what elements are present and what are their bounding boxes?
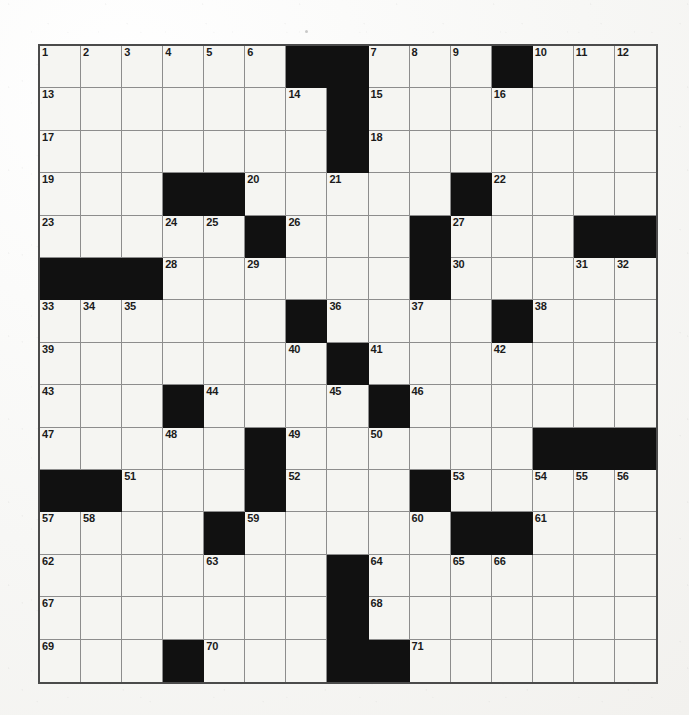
crossword-cell[interactable]: 21 — [327, 173, 368, 215]
crossword-cell[interactable] — [245, 640, 286, 682]
crossword-cell[interactable] — [163, 131, 204, 173]
crossword-cell[interactable] — [533, 385, 574, 427]
crossword-cell[interactable]: 16 — [492, 88, 533, 130]
crossword-cell[interactable]: 51 — [122, 470, 163, 512]
crossword-cell[interactable] — [81, 216, 122, 258]
crossword-cell[interactable] — [492, 385, 533, 427]
crossword-cell[interactable]: 68 — [369, 597, 410, 639]
crossword-cell[interactable] — [410, 343, 451, 385]
crossword-cell[interactable] — [369, 258, 410, 300]
crossword-cell[interactable]: 49 — [286, 428, 327, 470]
crossword-cell[interactable] — [615, 173, 656, 215]
crossword-cell[interactable] — [492, 470, 533, 512]
crossword-cell[interactable] — [81, 385, 122, 427]
crossword-cell[interactable] — [492, 597, 533, 639]
crossword-cell[interactable] — [163, 470, 204, 512]
crossword-cell[interactable] — [533, 131, 574, 173]
crossword-cell[interactable] — [327, 258, 368, 300]
crossword-cell[interactable]: 39 — [40, 343, 81, 385]
crossword-cell[interactable]: 14 — [286, 88, 327, 130]
crossword-cell[interactable] — [163, 512, 204, 554]
crossword-cell[interactable] — [369, 216, 410, 258]
crossword-cell[interactable] — [81, 428, 122, 470]
crossword-cell[interactable] — [286, 555, 327, 597]
crossword-cell[interactable] — [574, 597, 615, 639]
crossword-cell[interactable] — [122, 131, 163, 173]
crossword-cell[interactable] — [163, 88, 204, 130]
crossword-cell[interactable] — [163, 343, 204, 385]
crossword-cell[interactable]: 38 — [533, 300, 574, 342]
crossword-cell[interactable] — [369, 470, 410, 512]
crossword-cell[interactable] — [81, 131, 122, 173]
crossword-cell[interactable] — [451, 300, 492, 342]
crossword-cell[interactable] — [574, 131, 615, 173]
crossword-cell[interactable] — [615, 131, 656, 173]
crossword-cell[interactable]: 57 — [40, 512, 81, 554]
crossword-cell[interactable] — [163, 300, 204, 342]
crossword-cell[interactable] — [245, 343, 286, 385]
crossword-cell[interactable]: 43 — [40, 385, 81, 427]
crossword-cell[interactable] — [245, 385, 286, 427]
crossword-cell[interactable] — [286, 258, 327, 300]
crossword-cell[interactable]: 1 — [40, 46, 81, 88]
crossword-cell[interactable] — [615, 343, 656, 385]
crossword-cell[interactable]: 13 — [40, 88, 81, 130]
crossword-cell[interactable] — [81, 173, 122, 215]
crossword-cell[interactable]: 54 — [533, 470, 574, 512]
crossword-cell[interactable] — [410, 428, 451, 470]
crossword-cell[interactable] — [204, 470, 245, 512]
crossword-cell[interactable] — [81, 640, 122, 682]
crossword-cell[interactable] — [574, 385, 615, 427]
crossword-cell[interactable]: 23 — [40, 216, 81, 258]
crossword-cell[interactable] — [451, 385, 492, 427]
crossword-cell[interactable] — [122, 216, 163, 258]
crossword-cell[interactable] — [615, 88, 656, 130]
crossword-cell[interactable] — [492, 131, 533, 173]
crossword-cell[interactable] — [615, 640, 656, 682]
crossword-cell[interactable]: 5 — [204, 46, 245, 88]
crossword-cell[interactable]: 71 — [410, 640, 451, 682]
crossword-cell[interactable]: 50 — [369, 428, 410, 470]
crossword-cell[interactable]: 59 — [245, 512, 286, 554]
crossword-cell[interactable] — [492, 428, 533, 470]
crossword-cell[interactable] — [533, 258, 574, 300]
crossword-cell[interactable] — [451, 428, 492, 470]
crossword-cell[interactable] — [533, 597, 574, 639]
crossword-cell[interactable] — [574, 300, 615, 342]
crossword-cell[interactable] — [574, 640, 615, 682]
crossword-cell[interactable]: 35 — [122, 300, 163, 342]
crossword-cell[interactable]: 56 — [615, 470, 656, 512]
crossword-cell[interactable]: 11 — [574, 46, 615, 88]
crossword-cell[interactable] — [492, 640, 533, 682]
crossword-cell[interactable]: 24 — [163, 216, 204, 258]
crossword-cell[interactable]: 61 — [533, 512, 574, 554]
crossword-cell[interactable] — [122, 88, 163, 130]
crossword-cell[interactable] — [410, 555, 451, 597]
crossword-cell[interactable] — [327, 512, 368, 554]
crossword-cell[interactable] — [369, 300, 410, 342]
crossword-cell[interactable] — [245, 300, 286, 342]
crossword-cell[interactable]: 15 — [369, 88, 410, 130]
crossword-cell[interactable] — [410, 173, 451, 215]
crossword-cell[interactable] — [204, 300, 245, 342]
crossword-cell[interactable]: 41 — [369, 343, 410, 385]
crossword-cell[interactable] — [81, 88, 122, 130]
crossword-cell[interactable]: 70 — [204, 640, 245, 682]
crossword-cell[interactable] — [615, 385, 656, 427]
crossword-cell[interactable] — [204, 428, 245, 470]
crossword-cell[interactable]: 28 — [163, 258, 204, 300]
crossword-cell[interactable]: 33 — [40, 300, 81, 342]
crossword-cell[interactable] — [204, 258, 245, 300]
crossword-cell[interactable] — [122, 640, 163, 682]
crossword-cell[interactable]: 52 — [286, 470, 327, 512]
crossword-cell[interactable] — [615, 555, 656, 597]
crossword-cell[interactable]: 48 — [163, 428, 204, 470]
crossword-cell[interactable]: 7 — [369, 46, 410, 88]
crossword-cell[interactable]: 34 — [81, 300, 122, 342]
crossword-cell[interactable] — [286, 512, 327, 554]
crossword-cell[interactable]: 12 — [615, 46, 656, 88]
crossword-cell[interactable] — [204, 88, 245, 130]
crossword-cell[interactable]: 8 — [410, 46, 451, 88]
crossword-cell[interactable] — [533, 216, 574, 258]
crossword-cell[interactable]: 36 — [327, 300, 368, 342]
